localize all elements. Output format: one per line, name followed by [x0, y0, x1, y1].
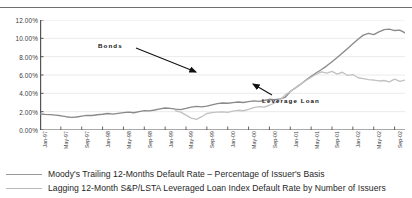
y-axis-tick-label: 4.00%	[0, 90, 38, 97]
x-axis-tick-label: Sep-97	[84, 131, 90, 148]
x-axis-tick-label: Jan-02	[355, 131, 361, 147]
legend-item: Lagging 12-Month S&P/LSTA Leveraged Loan…	[6, 181, 406, 195]
x-axis-tick-label: May-01	[314, 131, 320, 149]
x-axis-tick-label: Sep-99	[209, 131, 215, 148]
x-axis: Jan-97May-97Sep-97Jan-98May-98Sep-98Jan-…	[40, 131, 405, 163]
legend-swatch-line-icon	[6, 188, 42, 189]
x-axis-tick-label: Jan-97	[42, 131, 48, 147]
x-axis-tick-label: Jan-00	[230, 131, 236, 147]
x-axis-tick-label: Sep-98	[147, 131, 153, 148]
y-axis-tick-label: 6.00%	[0, 72, 38, 79]
y-axis-tick-label: 2.00%	[0, 108, 38, 115]
plot-area	[40, 20, 405, 130]
legend-item: Moody's Trailing 12-Months Default Rate …	[6, 167, 406, 181]
y-axis-tick-label: 10.00%	[0, 35, 38, 42]
legend-label: Moody's Trailing 12-Months Default Rate …	[48, 169, 325, 179]
x-axis-tick-label: May-98	[126, 131, 132, 149]
series-line	[176, 71, 405, 119]
chart-figure: 12.00%10.00%8.00%6.00%4.00%2.00%0.00% Ja…	[0, 0, 412, 198]
series-canvas	[40, 20, 405, 130]
x-axis-tick-label: May-02	[376, 131, 382, 149]
x-axis-tick-label: Sep-02	[397, 131, 403, 148]
y-axis-tick-label: 0.00%	[0, 127, 38, 134]
x-axis-tick-label: Sep-01	[334, 131, 340, 148]
legend-label: Lagging 12-Month S&P/LSTA Leveraged Loan…	[48, 183, 386, 193]
legend: Moody's Trailing 12-Months Default Rate …	[6, 167, 406, 195]
y-axis-tick-label: 8.00%	[0, 53, 38, 60]
annotation-leverage-loan: Leverage Loan	[262, 97, 320, 104]
x-axis-tick-label: Sep-00	[272, 131, 278, 148]
x-axis-tick-label: May-00	[251, 131, 257, 149]
x-axis-tick-label: May-99	[188, 131, 194, 149]
annotation-bonds: Bonds	[98, 42, 123, 49]
x-axis-tick-label: Jan-99	[168, 131, 174, 147]
x-axis-tick-label: May-97	[63, 131, 69, 149]
x-axis-tick-label: Jan-01	[293, 131, 299, 147]
top-divider	[0, 7, 412, 8]
series-line	[40, 29, 405, 117]
y-axis-tick-label: 12.00%	[0, 17, 38, 24]
y-axis: 12.00%10.00%8.00%6.00%4.00%2.00%0.00%	[0, 20, 38, 130]
x-axis-tick-label: Jan-98	[105, 131, 111, 147]
legend-swatch-line-icon	[6, 174, 42, 175]
